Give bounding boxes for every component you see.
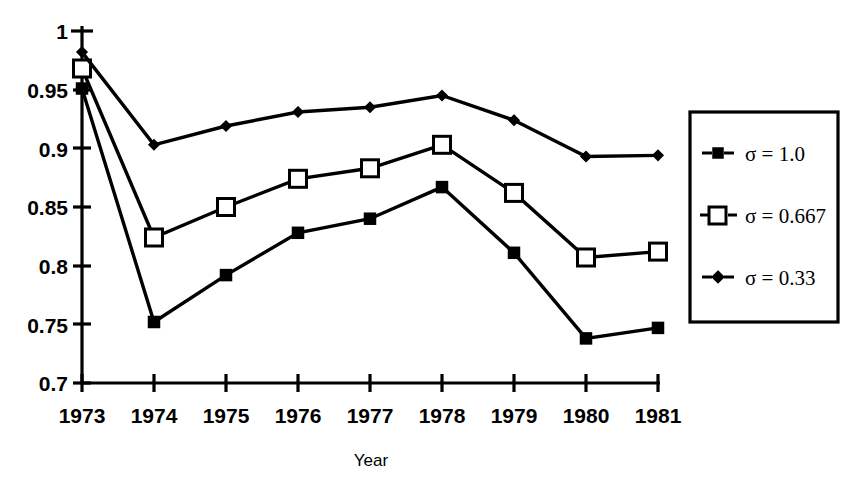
plot-series-layer: [74, 47, 667, 344]
series-2: [74, 60, 667, 266]
open-square-marker-icon: [434, 136, 451, 153]
diamond-marker-icon: [653, 150, 663, 160]
open-square-marker-icon: [74, 60, 91, 77]
x-tick-label: 1977: [347, 404, 394, 427]
chart-page: 1 0.95 0.9 0.85 0.8 0.75 0.7: [0, 0, 861, 495]
x-tick-label: 1981: [635, 404, 682, 427]
open-square-marker-icon: [290, 170, 307, 187]
legend-item-sigma-0667[interactable]: σ = 0.667: [700, 204, 826, 228]
legend-item-label: σ = 1.0: [745, 142, 805, 166]
diamond-marker-icon: [437, 90, 447, 100]
x-tick-label: 1976: [275, 404, 322, 427]
y-tick-label: 0.9: [39, 138, 68, 161]
x-tick-label: 1973: [59, 404, 106, 427]
filled-square-marker-icon: [221, 270, 232, 281]
filled-square-marker-icon: [77, 83, 88, 94]
y-tick-label: 0.75: [27, 314, 68, 337]
x-axis-tick-labels: 1973 1974 1975 1976 1977 1978 1979 1980 …: [59, 404, 682, 427]
filled-square-marker-icon: [365, 213, 376, 224]
line-chart: 1 0.95 0.9 0.85 0.8 0.75 0.7: [0, 0, 861, 495]
series-3: [77, 47, 663, 162]
x-tick-label: 1979: [491, 404, 538, 427]
y-tick-label: 0.95: [27, 79, 68, 102]
series-1: [77, 83, 664, 344]
x-tick-label: 1974: [131, 404, 178, 427]
x-tick-label: 1978: [419, 404, 466, 427]
open-square-marker-icon: [709, 207, 726, 224]
open-square-marker-icon: [218, 199, 235, 216]
filled-square-marker-icon: [653, 322, 664, 333]
y-tick-label: 0.7: [39, 372, 68, 395]
x-tick-label: 1975: [203, 404, 250, 427]
diamond-marker-icon: [365, 102, 375, 112]
open-square-marker-icon: [362, 160, 379, 177]
open-square-marker-icon: [146, 229, 163, 246]
y-tick-label: 0.85: [27, 196, 68, 219]
y-axis-tick-labels: 1 0.95 0.9 0.85 0.8 0.75 0.7: [27, 20, 68, 395]
filled-square-marker-icon: [293, 227, 304, 238]
diamond-marker-icon: [221, 121, 231, 131]
legend: σ = 1.0 σ = 0.667 σ = 0.33: [690, 112, 838, 322]
filled-square-marker-icon: [581, 333, 592, 344]
open-square-marker-icon: [650, 243, 667, 260]
y-tick-label: 0.8: [39, 255, 69, 278]
x-tick-label: 1980: [563, 404, 610, 427]
legend-item-label: σ = 0.667: [745, 204, 826, 228]
filled-square-marker-icon: [509, 247, 520, 258]
filled-square-marker-icon: [437, 182, 448, 193]
diamond-marker-icon: [293, 107, 303, 117]
filled-square-marker-icon: [149, 317, 160, 328]
y-tick-label: 1: [56, 20, 68, 43]
legend-item-label: σ = 0.33: [745, 266, 815, 290]
filled-square-marker-icon: [713, 148, 723, 158]
open-square-marker-icon: [506, 184, 523, 201]
open-square-marker-icon: [578, 249, 595, 266]
x-axis-title: Year: [354, 451, 389, 470]
